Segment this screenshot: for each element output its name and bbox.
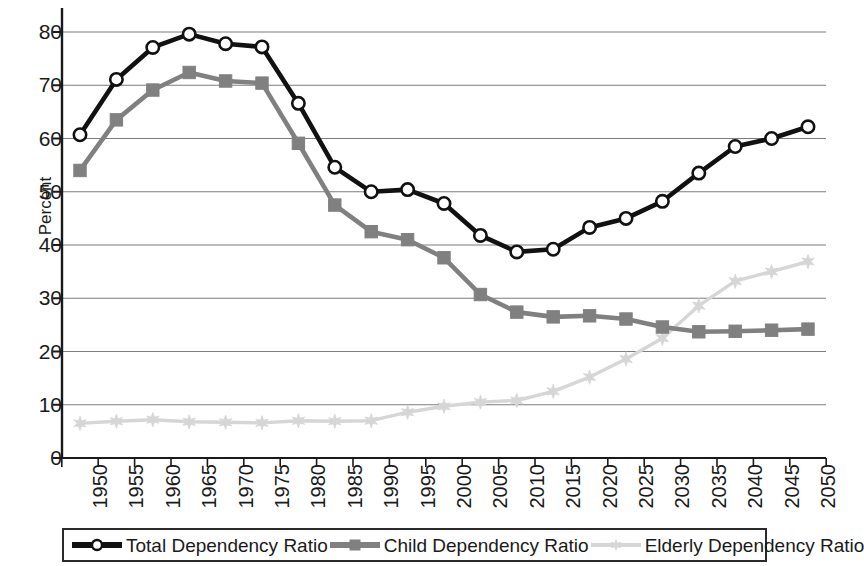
data-point-marker xyxy=(401,233,413,245)
legend-marker-icon xyxy=(70,536,124,554)
data-point-marker xyxy=(474,229,486,241)
legend-marker-icon xyxy=(589,536,643,554)
data-point-marker xyxy=(620,313,632,325)
data-point-marker xyxy=(802,323,814,335)
data-point-marker xyxy=(693,167,705,179)
data-point-marker xyxy=(147,84,159,96)
data-point-marker xyxy=(110,114,122,126)
data-point-marker xyxy=(765,324,777,336)
data-point-marker xyxy=(329,161,341,173)
data-point-marker xyxy=(292,137,304,149)
data-point-marker xyxy=(365,186,377,198)
data-point-marker xyxy=(802,121,814,133)
data-point-marker xyxy=(183,28,195,40)
legend-label: Total Dependency Ratio xyxy=(126,536,328,555)
data-point-marker xyxy=(729,140,741,152)
data-point-marker xyxy=(219,38,231,50)
data-point-marker xyxy=(438,197,450,209)
legend-label: Elderly Dependency Ratio xyxy=(645,536,864,555)
data-point-marker xyxy=(583,310,595,322)
data-point-marker xyxy=(110,73,122,85)
legend-marker-icon xyxy=(328,536,382,554)
series-total-dependency-ratio xyxy=(74,28,814,258)
data-point-marker xyxy=(547,243,559,255)
data-point-marker xyxy=(547,311,559,323)
data-point-marker xyxy=(292,97,304,109)
data-point-marker xyxy=(583,221,595,233)
data-point-marker xyxy=(256,41,268,53)
data-point-marker xyxy=(693,326,705,338)
data-point-marker xyxy=(183,66,195,78)
data-point-marker xyxy=(256,77,268,89)
data-point-marker xyxy=(765,132,777,144)
data-point-marker xyxy=(620,352,632,366)
chart-legend: Total Dependency RatioChild Dependency R… xyxy=(62,528,767,562)
data-point-marker xyxy=(147,41,159,53)
legend-entry: Elderly Dependency Ratio xyxy=(589,536,864,555)
data-point-marker xyxy=(74,164,86,176)
data-point-marker xyxy=(438,252,450,264)
data-point-marker xyxy=(219,75,231,87)
data-point-marker xyxy=(474,288,486,300)
data-point-marker xyxy=(656,195,668,207)
legend-label: Child Dependency Ratio xyxy=(384,536,589,555)
series-elderly-dependency-ratio xyxy=(74,254,814,430)
data-point-marker xyxy=(511,306,523,318)
data-point-marker xyxy=(329,199,341,211)
data-point-marker xyxy=(656,321,668,333)
data-point-marker xyxy=(401,183,413,195)
data-point-marker xyxy=(365,225,377,237)
data-point-marker xyxy=(729,325,741,337)
legend-entry: Total Dependency Ratio xyxy=(70,536,328,555)
data-point-marker xyxy=(620,212,632,224)
data-point-marker xyxy=(74,129,86,141)
legend-entry: Child Dependency Ratio xyxy=(328,536,589,555)
data-point-marker xyxy=(511,246,523,258)
